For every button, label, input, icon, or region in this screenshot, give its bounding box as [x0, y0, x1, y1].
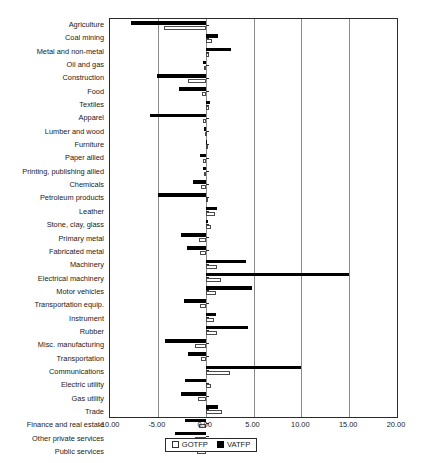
bar-vatfp — [206, 286, 252, 290]
bar-gotfp — [206, 198, 208, 202]
bar-row — [110, 46, 397, 59]
category-label: Coal mining — [0, 31, 108, 44]
bar-row — [110, 311, 397, 324]
bar-gotfp — [206, 145, 208, 149]
bar-vatfp — [184, 299, 206, 303]
category-label: Food — [0, 85, 108, 98]
open-square-icon — [172, 441, 179, 448]
bar-row — [110, 59, 397, 72]
category-label: Lumber and wood — [0, 125, 108, 138]
legend-box: GOTFPVATFP — [165, 438, 258, 452]
bar-row — [110, 350, 397, 363]
bar-row — [110, 178, 397, 191]
axis-tick — [206, 396, 209, 397]
bar-gotfp — [188, 79, 205, 83]
bar-row — [110, 165, 397, 178]
bar-row — [110, 19, 397, 32]
category-label: Apparel — [0, 111, 108, 124]
axis-tick — [206, 343, 209, 344]
bar-gotfp — [206, 384, 211, 388]
bar-gotfp — [203, 119, 205, 123]
bar-row — [110, 112, 397, 125]
category-label: Communications — [0, 365, 108, 378]
bar-gotfp — [164, 26, 206, 30]
bar-row — [110, 364, 397, 377]
bar-row — [110, 85, 397, 98]
bar-vatfp — [181, 392, 206, 396]
bar-vatfp — [204, 127, 206, 131]
bar-gotfp — [206, 371, 230, 375]
category-label: Misc. manufacturing — [0, 338, 108, 351]
bar-row — [110, 271, 397, 284]
bar-vatfp — [131, 21, 206, 25]
category-label: Transportation — [0, 352, 108, 365]
bar-gotfp — [199, 238, 206, 242]
bar-vatfp — [206, 405, 218, 409]
category-label: Primary metal — [0, 232, 108, 245]
bar-row — [110, 390, 397, 403]
bar-gotfp — [200, 304, 206, 308]
axis-tick — [206, 250, 209, 251]
bar-row — [110, 403, 397, 416]
filled-square-icon — [217, 441, 224, 448]
bar-gotfp — [206, 410, 222, 414]
axis-tick — [206, 184, 209, 185]
category-label: Machinery — [0, 258, 108, 271]
x-axis-tick-labels: -10.00-5.000.005.0010.0015.0020.00 — [109, 420, 398, 434]
axis-tick — [206, 91, 209, 92]
bar-gotfp — [201, 357, 206, 361]
bar-gotfp — [201, 185, 205, 189]
category-label: Trade — [0, 405, 108, 418]
bar-gotfp — [206, 291, 217, 295]
category-label: Rubber — [0, 325, 108, 338]
bar-gotfp — [204, 66, 206, 70]
category-label: Transportation equip. — [0, 298, 108, 311]
category-label: Finance and real estate — [0, 418, 108, 431]
bar-vatfp — [206, 34, 218, 38]
category-label: Leather — [0, 205, 108, 218]
category-axis-labels: AgricultureCoal miningMetal and non-meta… — [0, 18, 108, 458]
bar-vatfp — [206, 48, 232, 52]
x-tick-label: 5.00 — [245, 420, 259, 429]
bar-gotfp — [206, 212, 216, 216]
category-label: Instrument — [0, 312, 108, 325]
category-label: Construction — [0, 71, 108, 84]
bar-row — [110, 284, 397, 297]
bar-vatfp — [206, 220, 208, 224]
bar-row — [110, 324, 397, 337]
bar-vatfp — [158, 193, 206, 197]
bar-row — [110, 99, 397, 112]
bar-row — [110, 125, 397, 138]
bar-vatfp — [203, 61, 206, 65]
bar-row — [110, 337, 397, 350]
bar-vatfp — [187, 246, 206, 250]
bar-gotfp — [200, 251, 205, 255]
axis-tick — [206, 158, 209, 159]
plot-area — [109, 18, 398, 418]
bar-vatfp — [206, 207, 217, 211]
bar-vatfp — [200, 154, 206, 158]
bar-row — [110, 297, 397, 310]
bar-row — [110, 32, 397, 45]
axis-tick — [206, 118, 209, 119]
bar-rows — [110, 19, 397, 417]
bar-gotfp — [206, 278, 221, 282]
axis-tick — [206, 78, 209, 79]
bar-gotfp — [206, 331, 217, 335]
bar-row — [110, 258, 397, 271]
category-label: Fabricated metal — [0, 245, 108, 258]
bar-gotfp — [206, 53, 210, 57]
bar-vatfp — [203, 167, 206, 171]
bar-gotfp — [202, 92, 206, 96]
bar-gotfp — [205, 132, 207, 136]
x-tick-label: -10.00 — [99, 420, 120, 429]
legend-item: VATFP — [217, 440, 250, 449]
axis-tick — [206, 356, 209, 357]
category-label: Chemicals — [0, 178, 108, 191]
category-label: Metal and non-metal — [0, 45, 108, 58]
bar-vatfp — [206, 101, 211, 105]
bar-row — [110, 205, 397, 218]
category-label: Petroleum products — [0, 191, 108, 204]
x-tick-label: -5.00 — [148, 420, 165, 429]
bar-vatfp — [206, 273, 350, 277]
